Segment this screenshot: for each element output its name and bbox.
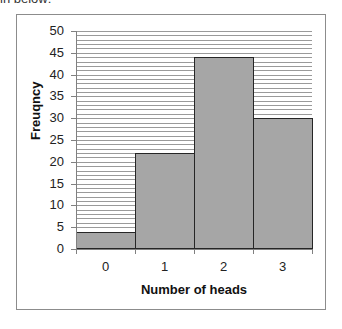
y-tick-mark xyxy=(71,53,76,54)
bar-3 xyxy=(253,118,313,249)
bar-0 xyxy=(76,232,136,249)
x-tick-mark xyxy=(76,249,77,254)
y-tick-mark xyxy=(71,162,76,163)
gridline xyxy=(76,31,312,32)
y-tick-mark xyxy=(71,227,76,228)
y-axis-line xyxy=(76,31,77,249)
y-tick-mark xyxy=(71,75,76,76)
y-tick-mark xyxy=(71,96,76,97)
x-tick-mark xyxy=(135,249,136,254)
y-tick-mark xyxy=(71,118,76,119)
x-tick-label: 3 xyxy=(263,259,303,274)
y-tick-label: 40 xyxy=(34,68,64,82)
gridline xyxy=(76,35,312,36)
x-tick-mark xyxy=(312,249,313,254)
y-tick-mark xyxy=(71,184,76,185)
x-tick-mark xyxy=(194,249,195,254)
y-tick-label: 45 xyxy=(34,46,64,60)
y-axis-title: Freuqncy xyxy=(28,81,43,140)
cropped-text-fragment: in below: xyxy=(0,0,51,6)
y-tick-label: 0 xyxy=(34,242,64,256)
bar-1 xyxy=(135,153,195,249)
gridline xyxy=(76,53,312,54)
gridline xyxy=(76,40,312,41)
x-axis-title: Number of heads xyxy=(0,282,342,297)
y-tick-label: 10 xyxy=(34,198,64,212)
gridline xyxy=(76,44,312,45)
bar-2 xyxy=(194,57,254,249)
x-tick-mark xyxy=(253,249,254,254)
y-tick-label: 50 xyxy=(34,24,64,38)
y-tick-mark xyxy=(71,31,76,32)
y-tick-mark xyxy=(71,205,76,206)
y-tick-mark xyxy=(71,140,76,141)
y-tick-label: 20 xyxy=(34,155,64,169)
gridline xyxy=(76,48,312,49)
plot-area xyxy=(76,31,312,249)
y-tick-label: 5 xyxy=(34,220,64,234)
x-tick-label: 1 xyxy=(145,259,185,274)
x-tick-label: 2 xyxy=(204,259,244,274)
x-tick-label: 0 xyxy=(86,259,126,274)
y-tick-label: 15 xyxy=(34,177,64,191)
